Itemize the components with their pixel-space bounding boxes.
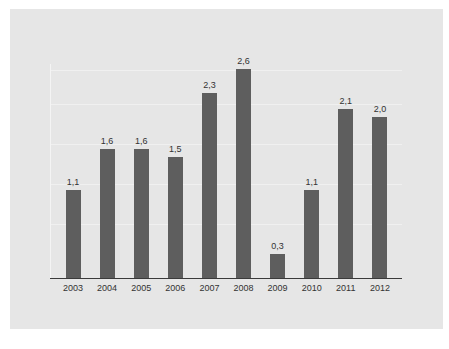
plot-area: 1,120031,620041,620051,520062,320072,620… bbox=[50, 9, 402, 278]
value-label: 2,0 bbox=[363, 104, 397, 114]
x-tick-label: 2009 bbox=[261, 283, 295, 293]
value-label: 1,1 bbox=[56, 177, 90, 187]
bar-2011 bbox=[338, 109, 353, 278]
gridline bbox=[50, 70, 402, 71]
bar-2006 bbox=[168, 157, 183, 278]
x-tick-label: 2008 bbox=[227, 283, 261, 293]
value-label: 2,6 bbox=[227, 56, 261, 66]
chart-panel: 1,120031,620041,620051,520062,320072,620… bbox=[10, 9, 443, 329]
x-tick-label: 2003 bbox=[56, 283, 90, 293]
x-tick-label: 2010 bbox=[295, 283, 329, 293]
x-tick-label: 2004 bbox=[90, 283, 124, 293]
bar-2009 bbox=[270, 254, 285, 278]
bar-2007 bbox=[202, 93, 217, 278]
value-label: 1,1 bbox=[295, 177, 329, 187]
value-label: 1,5 bbox=[158, 144, 192, 154]
bar-2012 bbox=[372, 117, 387, 278]
bar-2004 bbox=[100, 149, 115, 278]
x-tick-label: 2007 bbox=[192, 283, 226, 293]
bar-2010 bbox=[304, 190, 319, 278]
x-tick-label: 2005 bbox=[124, 283, 158, 293]
value-label: 2,3 bbox=[192, 80, 226, 90]
y-axis-line bbox=[50, 64, 51, 278]
bar-2005 bbox=[134, 149, 149, 278]
value-label: 1,6 bbox=[124, 136, 158, 146]
x-tick-label: 2011 bbox=[329, 283, 363, 293]
value-label: 1,6 bbox=[90, 136, 124, 146]
bar-2008 bbox=[236, 69, 251, 278]
x-tick-label: 2006 bbox=[158, 283, 192, 293]
x-tick-label: 2012 bbox=[363, 283, 397, 293]
value-label: 2,1 bbox=[329, 96, 363, 106]
value-label: 0,3 bbox=[261, 241, 295, 251]
bar-2003 bbox=[66, 190, 81, 278]
x-axis-baseline bbox=[50, 278, 402, 279]
